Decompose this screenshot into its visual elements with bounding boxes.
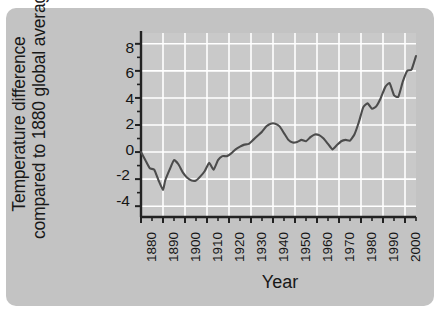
- x-tick-label-1960: 1960: [321, 232, 334, 262]
- y-tick-label-4: 4: [108, 92, 134, 106]
- plot-area: [0, 0, 440, 313]
- x-tick-label-1900: 1900: [189, 232, 202, 262]
- x-tick-label-1920: 1920: [233, 232, 246, 262]
- y-axis-title-line2: compared to 1880 global average (°C): [29, 9, 49, 239]
- x-tick-label-1910: 1910: [211, 232, 224, 262]
- x-tick-label-1950: 1950: [299, 232, 312, 262]
- x-tick-label-2000: 2000: [409, 232, 422, 262]
- y-tick-label-8: 8: [108, 41, 134, 55]
- y-tick-label-6: 6: [108, 66, 134, 80]
- y-tick-label-neg2: -2: [104, 168, 130, 182]
- x-tick-label-1990: 1990: [387, 232, 400, 262]
- y-tick-label-2: 2: [108, 117, 134, 131]
- x-tick-label-1930: 1930: [255, 232, 268, 262]
- x-tick-label-1880: 1880: [145, 232, 158, 262]
- y-axis-title: Temperature difference compared to 1880 …: [9, 9, 49, 239]
- y-tick-label-neg4: -4: [104, 194, 130, 208]
- x-axis-title: Year: [150, 272, 410, 293]
- x-tick-label-1890: 1890: [167, 232, 180, 262]
- x-tick-label-1980: 1980: [365, 232, 378, 262]
- chart-figure: Temperature difference compared to 1880 …: [0, 0, 440, 313]
- y-axis-title-line1: Temperature difference: [9, 9, 29, 239]
- x-tick-label-1970: 1970: [343, 232, 356, 262]
- x-tick-label-1940: 1940: [277, 232, 290, 262]
- y-tick-label-0: 0: [108, 143, 134, 157]
